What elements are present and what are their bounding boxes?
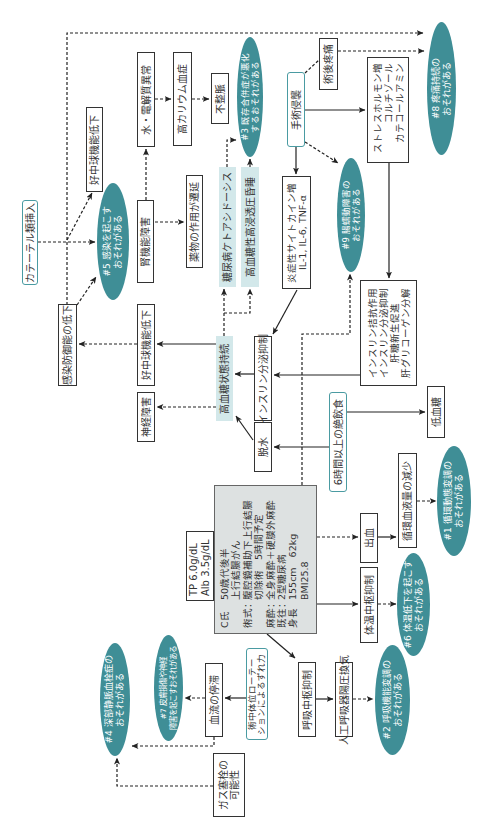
problem-2-respiration: #2 呼吸機能変調の おそれがある	[375, 645, 410, 755]
node-dka: 糖尿病ケトアシドーシス	[219, 167, 236, 287]
patient-label: 身長	[287, 600, 310, 628]
arrow-infection-defense-to-p5	[77, 277, 96, 305]
patient-value: 上行結腸がん	[230, 540, 241, 600]
patient-row-age: C氏 50歳代後半 上行結腸がん	[219, 491, 242, 628]
patient-label: 術式：	[242, 600, 265, 628]
patient-label: C氏	[219, 600, 242, 628]
problem-label: #5 感染を起こす	[102, 206, 113, 276]
problem-label: おそれがある	[115, 673, 126, 727]
lab-alb: Alb 3.5g/dL	[200, 532, 212, 596]
node-label: 低血糖	[431, 397, 442, 427]
node-neuropathy: 神経障害	[137, 392, 155, 442]
problem-4-dvt: #4 深部静脈血栓症の おそれがある	[100, 643, 130, 756]
node-label: 神経障害	[141, 397, 152, 437]
node-label: 循環血液量の減少	[402, 461, 413, 541]
node-label: コルチゾール	[383, 63, 394, 123]
problem-label: #4 深部静脈血栓症の	[104, 655, 115, 743]
node-label: 好中球機能低下	[89, 115, 100, 185]
node-cytokine: 炎症性サイトカイン増 IL-1, IL-6, TNF-α	[282, 176, 311, 289]
patient-profile-box: C氏 50歳代後半 上行結腸がん 術式： 腹腔鏡補助下上行結腸 切除術 5時間予…	[214, 485, 317, 634]
node-fasting: 6時間以上の絶飲食	[329, 392, 347, 492]
patient-label: 既往：	[276, 600, 287, 628]
arrow-surgical-to-p9	[305, 142, 338, 163]
line-surgical-to-postop-pain	[305, 60, 319, 73]
node-label: 腎機能障害	[140, 217, 151, 267]
node-label: カテコールアミン	[394, 63, 405, 143]
node-hypoglycemia: 低血糖	[427, 386, 445, 438]
node-label: ガス塞栓の	[218, 760, 229, 810]
problem-9-bowel: #9 腸蠕動障害の おそれがある	[337, 158, 365, 272]
node-label: インスリン分泌抑制	[378, 288, 389, 378]
patient-value: BMI25.8	[299, 534, 310, 600]
rotated-diagram-canvas: C氏 50歳代後半 上行結腸がん 術式： 腹腔鏡補助下上行結腸 切除術 5時間予…	[0, 0, 485, 824]
arrow-patient-to-resp-center	[267, 634, 295, 658]
node-label: 血流の停滞	[209, 675, 220, 725]
node-stress-hormone: ストレスホルモン増 コルチゾール カテコールアミン	[367, 57, 409, 163]
node-label: カテーテル類挿入	[25, 203, 36, 283]
node-catheter: カテーテル類挿入	[22, 200, 38, 285]
problem-label: #8 疼痛持続の	[431, 58, 442, 119]
problem-label: #9 腸蠕動障害の	[341, 180, 351, 249]
patient-value: 全身麻酔＋硬膜外麻酔	[265, 500, 276, 600]
node-label: 糖尿病ケトアシドーシス	[222, 172, 233, 282]
node-renal-dysfunction: 腎機能障害	[137, 200, 154, 283]
node-label: 好中球機能低下	[141, 310, 152, 380]
node-position-rotation: 術中体位ローテー ションによるずれ力	[246, 648, 268, 740]
problem-label: #2 呼吸機能変調の	[382, 660, 393, 739]
lab-values-box: TP 6.0g/dL Alb 3.5g/dL	[186, 531, 214, 601]
problem-6-hypothermia: #6 体温低下を起こす おそれがある	[397, 553, 430, 656]
problem-8-pain: #8 疼痛持続の おそれがある	[427, 22, 456, 155]
node-neutrophil-down-upper: 好中球機能低下	[86, 107, 103, 192]
node-label: 高血糖状態持続	[219, 344, 230, 414]
node-label: ションによるずれ力	[257, 654, 267, 735]
node-label: IL-1, IL-6, TNF-α	[297, 195, 308, 270]
arrow-dka-to-p3	[227, 140, 236, 167]
problem-5-infection: #5 感染を起こす おそれがある	[97, 183, 129, 300]
node-label: インスリン分泌抑制	[258, 334, 269, 424]
node-dehydration: 脱水	[254, 422, 272, 472]
patient-value: 155cm 62kg	[287, 534, 298, 600]
node-label: 高血糖性高浸透圧昏睡	[245, 177, 256, 277]
arrow-dehydration-to-hyperglycemia	[236, 416, 253, 440]
node-insulin-antagonism: インスリン拮抗作用 インスリン分泌抑制 肝糖新生促進 肝グリコーゲン分解	[360, 280, 417, 386]
problem-label: おそれがある	[393, 673, 404, 727]
node-label: 6時間以上の絶飲食	[333, 399, 344, 485]
patient-row-procedure: 術式： 腹腔鏡補助下上行結腸 切除術 5時間予定	[242, 491, 265, 628]
arrow-junction-to-neutrophil-upper	[67, 193, 92, 240]
problem-label: #6 体温低下を起こす	[403, 560, 414, 648]
problem-label: おそれがある	[113, 215, 124, 269]
node-label: 人工呼吸器陽圧換気	[339, 655, 350, 745]
node-gas-embolism: ガス塞栓の 可能性	[213, 753, 245, 817]
node-label: 感染防御能の低下	[62, 305, 73, 385]
problem-label: #1 循環動態変調の	[443, 461, 454, 540]
node-hhs: 高血糖性高浸透圧昏睡	[241, 167, 259, 287]
node-label: 体温中枢抑制	[364, 575, 375, 635]
patient-row-history: 既往： 2型糖尿病	[276, 491, 287, 628]
node-resp-center: 呼吸中枢抑制	[298, 662, 316, 737]
node-surgical-invasion: 手術侵襲	[287, 72, 305, 147]
problem-label: #7 皮膚損傷や神経	[159, 657, 169, 719]
problem-label: 障害を起こすおそれがある	[169, 646, 179, 730]
problem-label: するおそれがある	[250, 61, 260, 133]
node-label: 水・電解質異常	[141, 65, 152, 135]
patient-value: 切除術 5時間予定	[253, 500, 264, 600]
node-thermo-center: 体温中枢抑制	[360, 567, 378, 643]
patient-value: 2型糖尿病	[276, 554, 287, 600]
node-drug-prolonged: 薬物の作用が遷延	[186, 175, 203, 268]
node-neutrophil-down-lower: 好中球機能低下	[137, 304, 155, 386]
problem-label: おそれがある	[351, 188, 361, 242]
node-arrhythmia: 不整脈	[211, 73, 229, 124]
patient-value: 腹腔鏡補助下上行結腸	[242, 500, 253, 600]
problem-label: おそれがある	[454, 474, 465, 528]
node-label: インスリン拮抗作用	[367, 288, 378, 378]
lab-tp: TP 6.0g/dL	[188, 532, 200, 596]
node-insulin-suppression: インスリン分泌抑制	[254, 336, 272, 421]
node-label: 高カリウム血症	[177, 64, 188, 134]
patient-row-anesthesia: 麻酔： 全身麻酔＋硬膜外麻酔	[265, 491, 276, 628]
arrow-hyperglycemia-to-hhs	[224, 289, 250, 313]
problem-3-comorbidity: #3 既存合併症が悪化 するおそれがある	[237, 37, 263, 157]
problem-label: おそれがある	[414, 578, 425, 632]
node-label: 薬物の作用が遷延	[189, 182, 200, 262]
problem-label: おそれがある	[442, 62, 453, 116]
node-ventilation: 人工呼吸器陽圧換気	[335, 662, 353, 737]
